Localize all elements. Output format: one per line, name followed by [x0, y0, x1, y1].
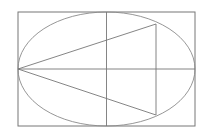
ellipse-construction-diagram [0, 0, 203, 138]
